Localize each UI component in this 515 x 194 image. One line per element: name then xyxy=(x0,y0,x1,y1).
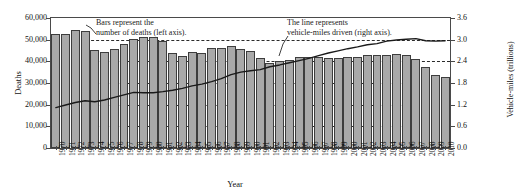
x-axis-tick-mark xyxy=(95,146,96,150)
y-axis-left-tick-label: 40,000 xyxy=(3,57,47,65)
x-axis-tick-mark xyxy=(114,146,115,150)
y-axis-left-tick-label: 30,000 xyxy=(3,79,47,87)
y-axis-right-tick-mark xyxy=(451,105,455,106)
y-axis-right-tick-label: 0.0 xyxy=(457,144,483,152)
x-axis-tick-mark xyxy=(182,146,183,150)
y-axis-right-title: Vehicle-miles (trillions) xyxy=(506,25,515,135)
x-axis-tick-mark xyxy=(163,146,164,150)
x-axis-tick-mark xyxy=(309,146,310,150)
y-axis-right-tick-label: 3.0 xyxy=(457,36,483,44)
x-axis-tick-mark xyxy=(299,146,300,150)
x-axis-tick-mark xyxy=(251,146,252,150)
x-axis-tick-mark xyxy=(406,146,407,150)
x-axis-tick-label: 2010 xyxy=(448,142,456,156)
x-axis-tick-mark xyxy=(348,146,349,150)
y-axis-right-tick-label: 2.4 xyxy=(457,57,483,65)
x-axis-tick-mark xyxy=(435,146,436,150)
x-axis-tick-mark xyxy=(192,146,193,150)
line-annotation: The line represents vehicle-miles driven… xyxy=(287,18,392,38)
x-axis-tick-mark xyxy=(377,146,378,150)
x-axis-tick-mark xyxy=(231,146,232,150)
x-axis-tick-mark xyxy=(212,146,213,150)
y-axis-right-tick-mark xyxy=(451,83,455,84)
y-axis-right-tick-mark xyxy=(451,18,455,19)
y-axis-right-tick-label: 0.6 xyxy=(457,122,483,130)
x-axis-tick-mark xyxy=(153,146,154,150)
x-axis-tick-mark xyxy=(280,146,281,150)
x-axis-tick-mark xyxy=(221,146,222,150)
x-axis-tick-mark xyxy=(66,146,67,150)
x-axis-tick-mark xyxy=(426,146,427,150)
x-axis-tick-mark xyxy=(56,146,57,150)
y-axis-left-tick-label: 10,000 xyxy=(3,122,47,130)
x-axis-tick-mark xyxy=(289,146,290,150)
y-axis-left-tick-label: 50,000 xyxy=(3,36,47,44)
x-axis-title: Year xyxy=(0,179,470,189)
x-axis-tick-mark xyxy=(134,146,135,150)
y-axis-right-tick-label: 1.8 xyxy=(457,79,483,87)
y-axis-right-tick-mark xyxy=(451,40,455,41)
x-axis-tick-mark xyxy=(75,146,76,150)
x-axis-tick-mark xyxy=(173,146,174,150)
x-axis-tick-mark xyxy=(143,146,144,150)
y-axis-left-tick-label: 20,000 xyxy=(3,101,47,109)
x-axis-tick-mark xyxy=(124,146,125,150)
x-axis-tick-mark xyxy=(387,146,388,150)
x-axis-tick-mark xyxy=(319,146,320,150)
x-axis-tick-mark xyxy=(338,146,339,150)
bars-annotation: Bars represent the number of deaths (lef… xyxy=(96,18,186,38)
x-axis-tick-mark xyxy=(445,146,446,150)
y-axis-left-tick-label: 0 xyxy=(3,144,47,152)
x-axis-tick-mark xyxy=(270,146,271,150)
x-axis-ticks: 1970197119721973197419751976197719781979… xyxy=(50,150,451,180)
x-axis-tick-mark xyxy=(85,146,86,150)
x-axis-tick-mark xyxy=(260,146,261,150)
y-axis-right-tick-label: 3.6 xyxy=(457,14,483,22)
y-axis-right-tick-mark xyxy=(451,126,455,127)
x-axis-tick-mark xyxy=(202,146,203,150)
y-axis-left-tick-label: 60,000 xyxy=(3,14,47,22)
x-axis-tick-mark xyxy=(241,146,242,150)
x-axis-tick-mark xyxy=(328,146,329,150)
x-axis-tick-mark xyxy=(396,146,397,150)
vehicle-miles-line xyxy=(56,39,445,108)
y-axis-right-tick-label: 1.2 xyxy=(457,101,483,109)
x-axis-tick-mark xyxy=(367,146,368,150)
x-axis-tick-mark xyxy=(358,146,359,150)
x-axis-tick-mark xyxy=(416,146,417,150)
y-axis-right-tick-mark xyxy=(451,61,455,62)
x-axis-tick-mark xyxy=(105,146,106,150)
